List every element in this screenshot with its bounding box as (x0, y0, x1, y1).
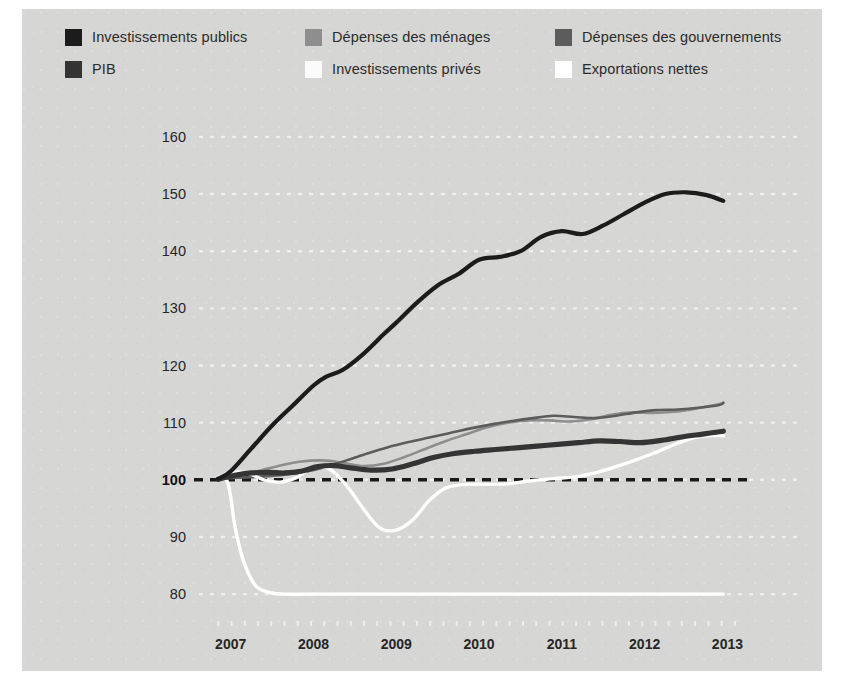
grid-lines (200, 137, 796, 626)
x-axis-tick-label: 2009 (381, 636, 412, 652)
y-axis-tick-label: 80 (170, 586, 186, 602)
chart-panel: Investissements publics Dépenses des mén… (22, 9, 822, 671)
x-axis-tick-label: 2007 (215, 636, 246, 652)
y-axis-tick-label: 160 (162, 129, 186, 145)
y-axis-tick-label: 120 (162, 358, 186, 374)
x-axis-tick-label: 2013 (712, 636, 743, 652)
figure-root: Investissements publics Dépenses des mén… (0, 0, 843, 687)
series-line (218, 477, 723, 594)
y-axis-tick-label: 90 (170, 529, 186, 545)
x-axis-labels: 2007200820092010201120122013 (215, 636, 743, 652)
series-lines (218, 192, 723, 594)
line-chart: 8090100110120130140150160 20072008200920… (22, 9, 822, 671)
y-axis-tick-label: 150 (162, 186, 186, 202)
y-axis-tick-label: 140 (162, 243, 186, 259)
series-line (218, 192, 723, 478)
x-axis-tick-label: 2012 (629, 636, 660, 652)
y-axis-tick-label: 100 (162, 472, 186, 488)
y-axis-tick-label: 130 (162, 300, 186, 316)
x-axis-tick-label: 2010 (463, 636, 494, 652)
plot-area: 8090100110120130140150160 20072008200920… (22, 9, 822, 671)
x-axis-tick-label: 2011 (547, 636, 578, 652)
y-axis-tick-label: 110 (163, 415, 186, 431)
y-axis-labels: 8090100110120130140150160 (162, 129, 186, 602)
x-axis-tick-label: 2008 (298, 636, 329, 652)
